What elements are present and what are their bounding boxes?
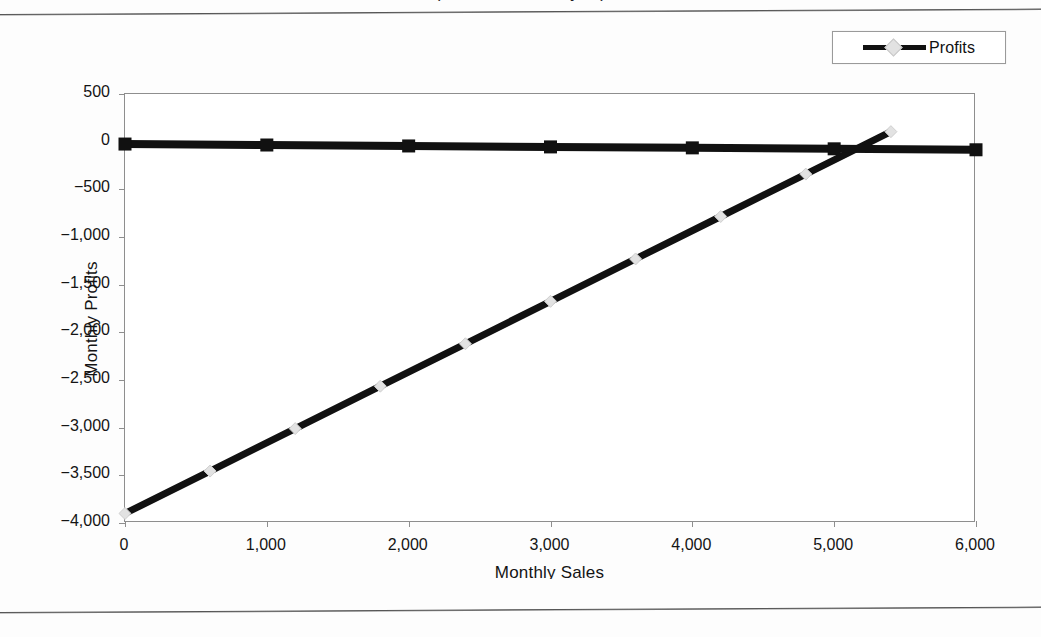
x-tick-label: 2,000 [388, 536, 428, 554]
y-tick-label: −1,000 [0, 226, 110, 244]
x-tick [976, 521, 977, 527]
y-tick-label: −2,000 [0, 321, 110, 339]
y-tick-label: 500 [0, 83, 110, 101]
y-tick-label: 0 [0, 131, 110, 149]
x-tick-label: 5,000 [813, 536, 853, 554]
page-rule-top [0, 9, 1041, 15]
y-tick-label: −2,500 [0, 369, 110, 387]
data-point-marker [260, 139, 273, 152]
series-line [125, 132, 891, 514]
y-tick-label: −3,500 [0, 464, 110, 482]
data-point-marker [686, 141, 699, 154]
y-tick-label: −500 [0, 178, 110, 196]
legend-label-profits: Profits [929, 39, 975, 57]
data-point-marker [970, 143, 983, 156]
plot-inner [125, 94, 974, 521]
chart-legend: Profits [832, 31, 1006, 64]
plot-area [124, 93, 975, 522]
data-point-marker [402, 139, 415, 152]
x-tick-label: 0 [120, 536, 129, 554]
x-tick-label: 4,000 [671, 536, 711, 554]
x-tick-label: 1,000 [246, 536, 286, 554]
data-point-marker [828, 142, 841, 155]
legend-diamond-marker-icon [884, 38, 902, 56]
x-tick-label: 3,000 [529, 536, 569, 554]
chart-title-text: (Break-Even Analysis) [435, 0, 606, 2]
data-point-marker [119, 138, 132, 151]
y-tick-label: −1,500 [0, 274, 110, 292]
figure-page: (Break-Even Analysis) Profits Monthly Pr… [0, 0, 1041, 637]
legend-entry-profits: Profits [863, 39, 975, 57]
x-axis-title: Monthly Sales [124, 564, 975, 584]
series-layer [125, 94, 976, 523]
y-tick-label: −3,000 [0, 417, 110, 435]
x-tick-label: 6,000 [955, 536, 995, 554]
data-point-marker [544, 140, 557, 153]
chart-title-clipped: (Break-Even Analysis) [0, 0, 1041, 3]
x-axis-title-text: Monthly Sales [495, 564, 604, 579]
y-tick-label: −4,000 [0, 512, 110, 530]
series-1 [119, 126, 897, 520]
page-rule-bottom [0, 607, 1041, 613]
